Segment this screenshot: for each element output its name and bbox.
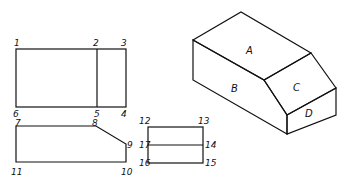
- isometric-view: A B C D: [193, 12, 336, 134]
- face-label-B: B: [231, 83, 238, 94]
- point-label-13: 13: [198, 116, 210, 126]
- point-label-10: 10: [121, 167, 133, 177]
- face-label-A: A: [245, 45, 253, 56]
- front-view-outline: [16, 49, 126, 107]
- point-label-15: 15: [205, 158, 217, 168]
- point-label-11: 11: [11, 167, 22, 177]
- point-label-12: 12: [139, 116, 151, 126]
- face-C: [264, 53, 336, 115]
- point-label-17: 17: [139, 140, 151, 150]
- face-label-C: C: [293, 82, 300, 93]
- point-label-3: 3: [121, 38, 127, 48]
- point-label-2: 2: [93, 38, 99, 48]
- point-label-9: 9: [127, 140, 133, 150]
- small-view: 12 13 14 15 16 17: [139, 116, 217, 168]
- point-label-14: 14: [205, 140, 217, 150]
- point-label-4: 4: [121, 109, 127, 119]
- point-label-1: 1: [14, 38, 20, 48]
- side-view-outline: [16, 126, 126, 162]
- point-label-8: 8: [92, 118, 98, 128]
- face-label-D: D: [305, 108, 313, 119]
- point-label-16: 16: [139, 158, 151, 168]
- technical-drawing: 1 2 3 4 5 6 7 8 9 10 11 12 13 14 15 16 1…: [0, 0, 346, 184]
- front-view: 1 2 3 4 5 6: [13, 38, 127, 119]
- side-view: 7 8 9 10 11: [11, 118, 133, 177]
- point-label-7: 7: [15, 118, 21, 128]
